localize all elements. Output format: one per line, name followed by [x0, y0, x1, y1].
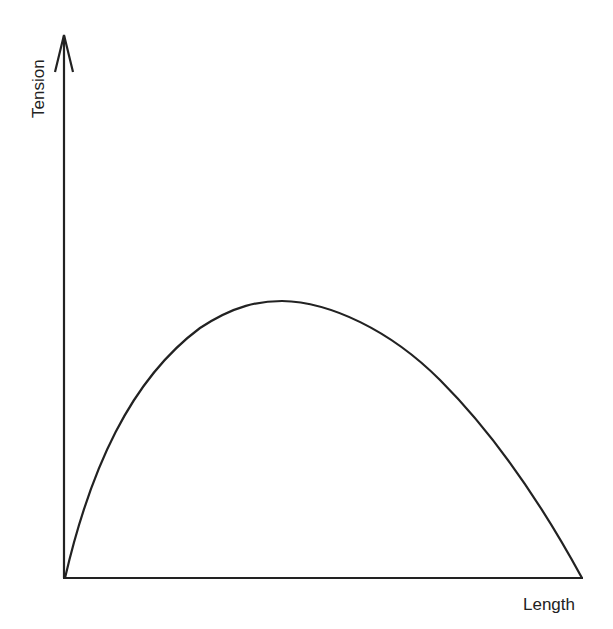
y-axis-label: Tension — [29, 59, 48, 118]
tension-length-chart: Tension Length — [0, 0, 613, 629]
tension-curve — [65, 301, 582, 578]
x-axis-label: Length — [523, 595, 575, 614]
